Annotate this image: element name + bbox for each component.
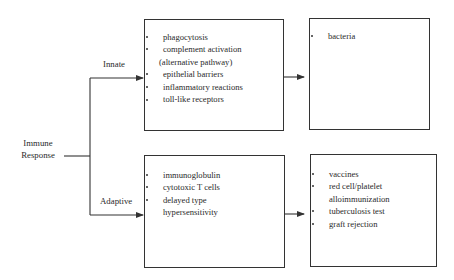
list-item: toll-like receptors	[146, 93, 284, 105]
bullet-icon	[311, 35, 313, 37]
innate-examples-list: bacteria	[311, 30, 430, 42]
list-item: tuberculosis test	[312, 205, 437, 217]
bullet-icon	[312, 223, 314, 225]
bullet-icon	[146, 99, 148, 101]
bullet-icon	[146, 48, 148, 50]
bullet-icon	[146, 36, 148, 38]
innate-examples-box: bacteria	[309, 18, 430, 130]
list-item: inflammatory reactions	[146, 81, 284, 93]
bullet-icon	[146, 86, 148, 88]
bullet-icon	[312, 173, 314, 175]
root-label-line1: Immune	[14, 137, 62, 149]
adaptive-examples-box: vaccines red cell/plateletalloimmunizati…	[310, 154, 437, 267]
adaptive-label: Adaptive	[100, 195, 132, 207]
list-item: immunoglobulin	[146, 169, 285, 181]
adaptive-examples-list: vaccines red cell/plateletalloimmunizati…	[312, 168, 437, 230]
bullet-icon	[146, 199, 148, 201]
list-item: complement activation(alternative pathwa…	[146, 43, 284, 68]
bullet-icon	[146, 174, 148, 176]
list-item: epithelial barriers	[146, 68, 284, 80]
innate-label: Innate	[103, 58, 125, 70]
bullet-icon	[146, 186, 148, 188]
list-item: bacteria	[311, 30, 430, 42]
root-label: Immune Response	[14, 137, 62, 161]
list-item: graft rejection	[312, 218, 437, 230]
immune-response-diagram: Immune Response Innate Adaptive phagocyt…	[0, 0, 454, 280]
adaptive-mechanisms-list: immunoglobulin cytotoxic T cells delayed…	[146, 169, 285, 219]
list-item: vaccines	[312, 168, 437, 180]
bullet-icon	[312, 185, 314, 187]
innate-mechanisms-box: phagocytosis complement activation(alter…	[144, 19, 284, 131]
list-item: phagocytosis	[146, 31, 284, 43]
bullet-icon	[312, 210, 314, 212]
innate-mechanisms-list: phagocytosis complement activation(alter…	[146, 31, 284, 105]
list-item: delayed typehypersensitivity	[146, 194, 285, 219]
adaptive-mechanisms-box: immunoglobulin cytotoxic T cells delayed…	[144, 155, 285, 268]
list-item: cytotoxic T cells	[146, 181, 285, 193]
root-label-line2: Response	[14, 149, 62, 161]
list-item: red cell/plateletalloimmunization	[312, 180, 437, 205]
bullet-icon	[146, 73, 148, 75]
